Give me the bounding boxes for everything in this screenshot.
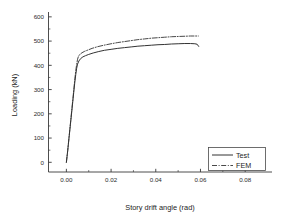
y-axis-title: Loading (kN) [10, 74, 19, 116]
x-tick-label: 0.04 [150, 176, 163, 183]
legend-label-test: Test [236, 151, 249, 160]
chart-legend[interactable]: TestFEM [209, 148, 266, 171]
y-tick-label: 200 [34, 110, 45, 117]
loading-vs-drift-angle-chart: 0100200300400500600 0.000.020.040.060.08… [0, 0, 284, 216]
x-tick-label: 0.00 [60, 176, 73, 183]
series-line-test [66, 44, 198, 163]
x-tick-label: 0.02 [105, 176, 118, 183]
y-tick-label: 100 [34, 134, 45, 141]
x-tick-label: 0.08 [239, 176, 252, 183]
y-tick-label: 600 [34, 13, 45, 20]
y-tick-label: 400 [34, 62, 45, 69]
y-tick-label: 500 [34, 37, 45, 44]
x-axis-title: Story drift angle (rad) [125, 203, 194, 212]
y-axis-ticks: 0100200300400500600 [34, 13, 52, 165]
data-series-group [66, 36, 198, 162]
x-tick-label: 0.06 [194, 176, 207, 183]
chart-figure: 0100200300400500600 0.000.020.040.060.08… [0, 0, 284, 216]
y-tick-label: 0 [41, 159, 45, 166]
y-tick-label: 300 [34, 86, 45, 93]
legend-label-fem: FEM [236, 161, 251, 170]
